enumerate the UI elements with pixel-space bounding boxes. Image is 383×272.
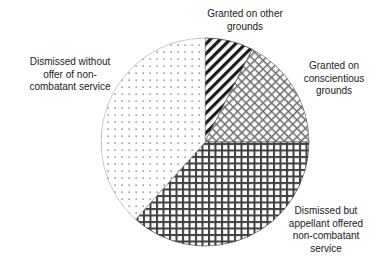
pie-label-granted-conscientious: Granted on conscientious grounds — [288, 60, 380, 98]
pie-label-granted-other: Granted on other grounds — [181, 8, 309, 33]
pie-label-dismissed-without: Dismissed without offer of non- combatan… — [4, 56, 136, 94]
pie-label-dismissed-offered: Dismissed but appellant offered non-comb… — [272, 205, 380, 255]
pie-chart: Granted on other grounds Granted on cons… — [0, 0, 383, 272]
